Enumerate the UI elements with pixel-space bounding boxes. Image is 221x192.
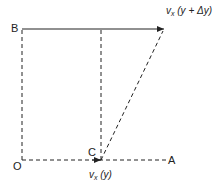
label-C: C [88, 146, 96, 158]
label-bottom-velocity: vx (y) [89, 169, 112, 181]
bottom-velocity-argument: (y) [98, 169, 112, 180]
line-diagonal-dashed [101, 31, 163, 160]
top-velocity-argument: (y + Δy) [175, 5, 213, 16]
diagram-canvas: B O A C vx (y + Δy) vx (y) [0, 0, 221, 192]
diagram-svg: B O A C vx (y + Δy) vx (y) [0, 0, 221, 192]
label-B: B [11, 22, 18, 34]
label-O: O [13, 160, 22, 172]
label-top-velocity: vx (y + Δy) [166, 5, 212, 17]
label-A: A [168, 154, 176, 166]
